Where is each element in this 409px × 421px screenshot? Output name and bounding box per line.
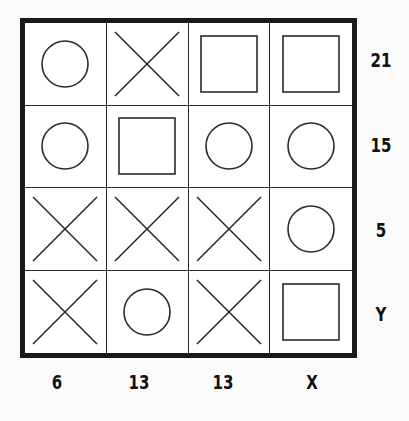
column-sum-label: 13: [124, 370, 154, 394]
cross-icon: [117, 34, 177, 94]
column-sum-label: X: [297, 370, 327, 394]
circle-icon: [281, 116, 341, 176]
grid-cell: [270, 271, 352, 354]
circle-icon: [35, 34, 95, 94]
grid-cell: [189, 188, 271, 271]
cross-icon: [117, 199, 177, 259]
cross-icon: [35, 199, 95, 259]
grid-cell: [270, 23, 352, 106]
cross-icon: [199, 282, 259, 342]
grid-cell: [25, 188, 107, 271]
grid-cell: [107, 106, 189, 189]
cross-icon: [199, 199, 259, 259]
grid-cell: [107, 271, 189, 354]
row-sum-label: 5: [370, 218, 393, 242]
grid-cell: [270, 106, 352, 189]
grid-cell: [25, 271, 107, 354]
square-icon: [281, 34, 341, 94]
row-sum-label: Y: [370, 302, 393, 326]
grid-cell: [107, 188, 189, 271]
circle-icon: [199, 116, 259, 176]
column-sum-label: 13: [208, 370, 238, 394]
symbol-grid: [20, 18, 357, 358]
square-icon: [281, 282, 341, 342]
square-icon: [199, 34, 259, 94]
row-sum-label: 21: [370, 48, 393, 72]
grid-cell: [25, 106, 107, 189]
circle-icon: [281, 199, 341, 259]
grid-cell: [189, 271, 271, 354]
grid-cell: [107, 23, 189, 106]
column-sum-label: 6: [42, 370, 72, 394]
circle-icon: [35, 116, 95, 176]
circle-icon: [117, 282, 177, 342]
grid-cell: [25, 23, 107, 106]
cross-icon: [35, 282, 95, 342]
grid-cell: [189, 23, 271, 106]
grid-cell: [270, 188, 352, 271]
grid-cell: [189, 106, 271, 189]
row-sum-label: 15: [370, 133, 393, 157]
square-icon: [117, 116, 177, 176]
